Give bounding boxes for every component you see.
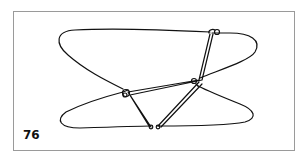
figure-number: 76 <box>23 128 40 142</box>
wire-hanger-illustration <box>0 0 304 159</box>
upper-hanger-outline <box>59 29 257 89</box>
lower-hanger-outline <box>60 86 253 128</box>
bent-wire <box>128 29 215 127</box>
